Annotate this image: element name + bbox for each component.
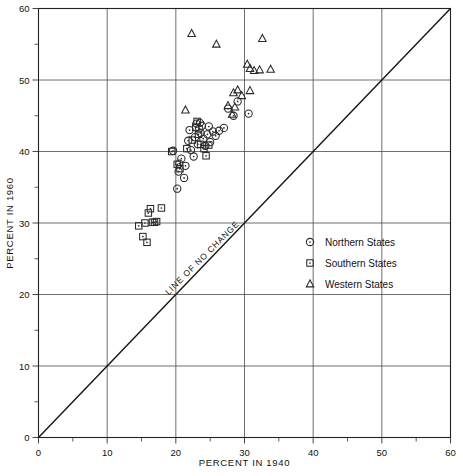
point-circle-0-20-center [215,135,217,137]
ytick-label-0: 0 [24,432,29,443]
point-triangle-2-13 [231,103,239,110]
point-triangle-2-8 [230,89,238,96]
point-circle-0-21-center [218,130,220,132]
point-circle-0-22-center [223,127,225,129]
xtick-label-60: 60 [445,447,456,458]
point-square-1-9-center [161,207,163,209]
point-circle-0-26-center [248,113,250,115]
point-triangle-2-6 [259,34,267,41]
legend-label-western-states: Western States [325,279,393,290]
point-circle-0-13-center [200,132,202,134]
point-square-1-0-center [138,225,140,227]
legend: Northern StatesSouthern StatesWestern St… [306,237,396,290]
ytick-label-30: 30 [19,218,30,229]
point-circle-0-2-center [178,163,180,165]
point-square-1-1-center [142,236,144,238]
point-square-1-18-center [205,155,207,157]
y-axis-title: PERCENT IN 1960 [4,177,15,269]
legend-marker-triangle [306,280,314,287]
scatter-chart: LINE OF NO CHANGE 0102030405060010203040… [0,0,463,476]
point-triangle-2-5 [256,66,264,73]
point-square-1-12-center [179,168,181,170]
point-circle-0-25-center [237,101,239,103]
point-circle-0-5-center [185,165,187,167]
point-square-1-17-center [203,148,205,150]
x-axis-title: PERCENT IN 1940 [199,457,291,468]
point-triangle-2-11 [246,87,254,94]
point-square-1-5-center [150,208,152,210]
xtick-label-30: 30 [239,447,250,458]
point-circle-0-15-center [202,138,204,140]
point-circle-0-3-center [180,158,182,160]
ytick-label-60: 60 [19,3,30,14]
point-circle-0-0-center [176,188,178,190]
point-circle-0-8-center [193,156,195,158]
point-circle-0-14-center [201,125,203,127]
xtick-label-40: 40 [308,447,319,458]
point-triangle-2-0 [188,29,196,36]
point-square-1-2-center [144,222,146,224]
point-square-1-3-center [146,241,148,243]
point-circle-0-19-center [212,131,214,133]
xtick-label-50: 50 [377,447,388,458]
point-square-1-14-center [196,121,198,123]
point-circle-0-30-center [208,126,210,128]
point-circle-0-17-center [207,133,209,135]
point-square-1-7-center [154,221,156,223]
point-circle-0-24-center [233,115,235,117]
point-circle-0-4-center [183,177,185,179]
legend-marker-circle-center [309,241,311,243]
plot-svg: LINE OF NO CHANGE 0102030405060010203040… [0,0,463,476]
point-square-1-20-center [186,148,188,150]
point-circle-0-28-center [189,129,191,131]
ytick-label-40: 40 [19,146,30,157]
point-triangle-2-14 [182,106,190,113]
point-square-1-8-center [156,221,158,223]
point-triangle-2-15 [228,110,236,117]
legend-label-northern-states: Northern States [325,237,395,248]
xtick-label-10: 10 [102,447,113,458]
point-square-1-15-center [198,133,200,135]
point-triangle-2-9 [234,86,242,93]
xtick-label-20: 20 [171,447,182,458]
ytick-label-50: 50 [19,75,30,86]
legend-marker-square-center [309,262,311,264]
series-western-states [182,29,275,117]
ytick-label-20: 20 [19,289,30,300]
point-square-1-21-center [191,139,193,141]
point-triangle-2-1 [213,40,221,47]
point-triangle-2-7 [267,65,275,72]
line-of-no-change-label: LINE OF NO CHANGE [163,219,241,297]
point-square-1-13-center [195,126,197,128]
series-southern-states [136,118,212,245]
point-square-1-19-center [208,144,210,146]
point-square-1-10-center [171,151,173,153]
legend-label-southern-states: Southern States [325,258,397,269]
ytick-label-10: 10 [19,361,30,372]
xtick-label-0: 0 [36,447,41,458]
